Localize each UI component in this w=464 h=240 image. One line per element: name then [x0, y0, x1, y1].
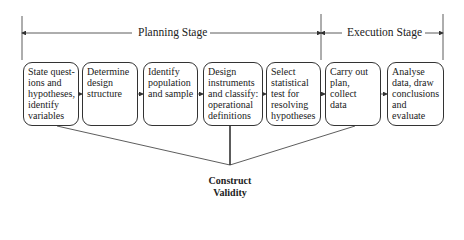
step-select-test: Select statistical test for resolving hy… — [266, 62, 321, 126]
step-analyse-data: Analyse data, draw conclusions and evalu… — [387, 62, 444, 126]
step-label: Identify population and sample — [148, 66, 194, 99]
construct-validity-label: Construct Validity — [200, 175, 260, 198]
construct-validity-line2: Validity — [200, 187, 260, 199]
step-label: Carry out plan, collect data — [330, 66, 377, 110]
step-label: Design instruments and classify: operati… — [208, 66, 259, 121]
step-label: State quest- ions and hypotheses, identi… — [28, 66, 75, 121]
construct-validity-line1: Construct — [200, 175, 260, 187]
validity-line-step6 — [230, 126, 355, 165]
step-carry-out-plan: Carry out plan, collect data — [325, 62, 381, 126]
step-state-questions: State quest- ions and hypotheses, identi… — [23, 62, 79, 126]
validity-line-step1 — [57, 126, 230, 165]
step-label: Determine design structure — [87, 66, 134, 99]
step-determine-design: Determine design structure — [82, 62, 138, 126]
step-label: Analyse data, draw conclusions and evalu… — [392, 66, 440, 126]
step-identify-population: Identify population and sample — [143, 62, 198, 126]
planning-stage-label: Planning Stage — [135, 26, 210, 39]
step-design-instruments: Design instruments and classify: operati… — [203, 62, 263, 126]
step-label: Select statistical test for resolving hy… — [271, 66, 317, 121]
execution-stage-label: Execution Stage — [344, 26, 425, 39]
